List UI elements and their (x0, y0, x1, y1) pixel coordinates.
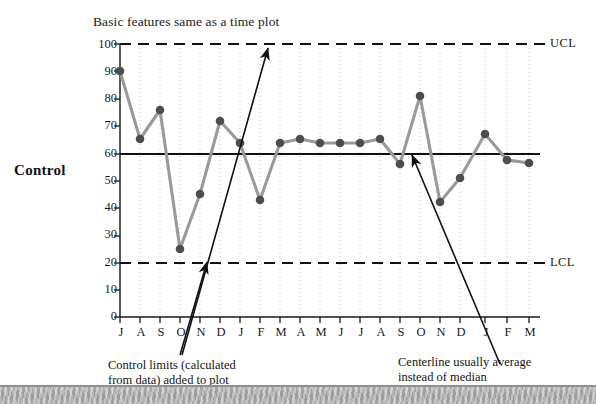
axis-lines (120, 44, 540, 317)
data-point (376, 135, 385, 144)
data-point (116, 67, 125, 76)
data-point (316, 139, 325, 148)
data-line (120, 71, 529, 249)
data-point (396, 160, 405, 169)
footer-bar (0, 387, 596, 404)
data-point (276, 139, 285, 148)
data-point (356, 139, 365, 148)
figure-root: Basic features same as a time plot Contr… (0, 0, 596, 404)
data-point (136, 135, 145, 144)
y-axis-ticks (114, 44, 120, 317)
data-point (296, 135, 305, 144)
data-point (196, 190, 205, 199)
data-point (416, 92, 425, 101)
data-point (216, 117, 225, 126)
x-axis-ticks (120, 317, 529, 323)
data-point (156, 106, 165, 115)
data-point (481, 130, 490, 139)
data-point (336, 139, 345, 148)
annotation-arrow-to-centerline (412, 155, 500, 364)
data-point (176, 245, 185, 254)
data-point (456, 174, 465, 183)
grid-vertical (120, 44, 529, 317)
data-point (503, 156, 512, 165)
annotation-arrow-to-lcl (180, 262, 207, 355)
plot-canvas (0, 0, 596, 404)
data-point (525, 159, 534, 168)
annotation-arrow-to-ucl (182, 48, 268, 355)
data-point (436, 198, 445, 207)
data-point (256, 196, 265, 205)
